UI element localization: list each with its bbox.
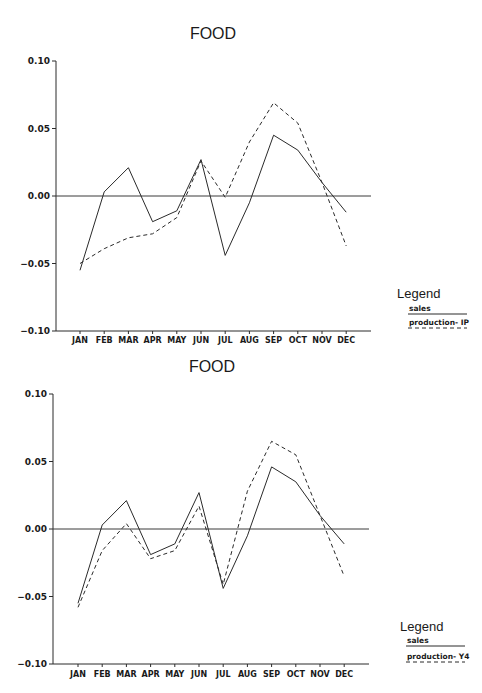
x-tick-label: OCT	[289, 336, 308, 345]
y-tick-label: 0.10	[25, 389, 47, 399]
legend-title: Legend	[397, 286, 440, 301]
legend: Legend sales production- IP	[397, 286, 470, 328]
series-line-production-y4	[78, 441, 344, 607]
x-tick-label: JAN	[71, 336, 88, 345]
x-tick-label: DEC	[335, 670, 353, 679]
x-tick-label: AUG	[238, 670, 257, 679]
x-tick-label: FEB	[96, 336, 113, 345]
y-axis-tick-labels: 0.100.050.00−0.05−0.10	[20, 56, 50, 336]
legend-entry-sales: sales	[407, 636, 429, 645]
x-tick-label: AUG	[240, 336, 259, 345]
x-tick-label: MAY	[165, 670, 184, 679]
x-tick-label: FEB	[94, 670, 111, 679]
legend-entry-production: production- IP	[409, 318, 470, 327]
y-tick-label: −0.10	[20, 326, 50, 336]
series-line-sales	[78, 467, 344, 603]
x-tick-label: NOV	[312, 336, 332, 345]
series-lines	[78, 441, 344, 607]
x-tick-label: JUN	[190, 670, 207, 679]
x-tick-label: JUN	[192, 336, 209, 345]
legend-entry-sales: sales	[409, 304, 431, 313]
legend-title: Legend	[400, 619, 443, 634]
chart-food-production-ip: FOOD 0.100.050.00−0.05−0.10 JANFEBMARAPR…	[20, 25, 469, 345]
y-tick-label: 0.05	[28, 124, 50, 134]
y-tick-label: 0.00	[25, 524, 47, 534]
legend-entry-production: production- Y4	[407, 652, 469, 661]
y-tick-label: −0.05	[20, 259, 50, 269]
series-line-sales	[80, 135, 346, 270]
x-tick-label: DEC	[337, 336, 355, 345]
chart-food-production-y4: FOOD 0.100.050.00−0.05−0.10 JANFEBMARAPR…	[17, 358, 469, 679]
x-tick-label: MAR	[118, 336, 138, 345]
chart-title: FOOD	[189, 358, 235, 375]
y-tick-label: 0.05	[25, 457, 47, 467]
x-axis-tick-labels: JANFEBMARAPRMAYJUNJULAUGSEPOCTNOVDEC	[71, 336, 355, 345]
x-tick-label: MAR	[116, 670, 136, 679]
series-line-production-ip	[80, 103, 346, 264]
x-tick-label: SEP	[263, 670, 280, 679]
chart-title: FOOD	[190, 25, 236, 42]
series-lines	[80, 103, 346, 270]
x-tick-label: MAY	[167, 336, 186, 345]
axes	[52, 61, 371, 334]
x-tick-label: SEP	[265, 336, 282, 345]
y-tick-label: 0.00	[28, 191, 50, 201]
x-tick-label: NOV	[310, 670, 330, 679]
legend: Legend sales production- Y4	[400, 619, 469, 662]
y-axis-tick-labels: 0.100.050.00−0.05−0.10	[17, 389, 47, 669]
x-tick-label: JAN	[69, 670, 86, 679]
x-tick-label: OCT	[287, 670, 306, 679]
y-tick-label: −0.05	[17, 592, 47, 602]
x-tick-label: APR	[143, 336, 161, 345]
figure: FOOD 0.100.050.00−0.05−0.10 JANFEBMARAPR…	[0, 0, 482, 693]
x-tick-label: JUL	[215, 670, 231, 679]
y-tick-label: −0.10	[17, 659, 47, 669]
y-tick-label: 0.10	[28, 56, 50, 66]
x-tick-label: APR	[141, 670, 159, 679]
x-axis-tick-labels: JANFEBMARAPRMAYJUNJULAUGSEPOCTNOVDEC	[69, 670, 353, 679]
x-tick-label: JUL	[217, 336, 233, 345]
